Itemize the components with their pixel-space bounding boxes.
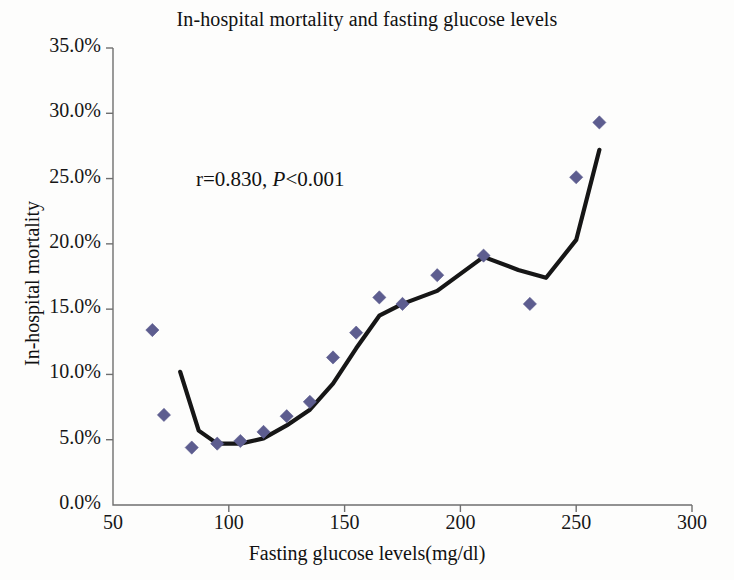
x-tick-label: 200 [425,511,495,534]
axis-lines [113,48,692,505]
plot-area [0,0,734,580]
y-tick-label: 30.0% [9,99,101,122]
y-tick-label: 5.0% [9,426,101,449]
trend-line [180,150,599,444]
data-point-markers [146,116,606,454]
x-tick-label: 300 [657,511,727,534]
chart-figure: In-hospital mortality and fasting glucos… [0,0,734,580]
y-tick-label: 25.0% [9,165,101,188]
x-tick-label: 100 [194,511,264,534]
x-tick-label: 150 [310,511,380,534]
y-tick-label: 10.0% [9,360,101,383]
y-axis-ticks [106,48,113,440]
x-tick-label: 250 [541,511,611,534]
x-tick-label: 50 [78,511,148,534]
y-tick-label: 35.0% [9,34,101,57]
y-tick-label: 20.0% [9,230,101,253]
y-tick-label: 15.0% [9,295,101,318]
